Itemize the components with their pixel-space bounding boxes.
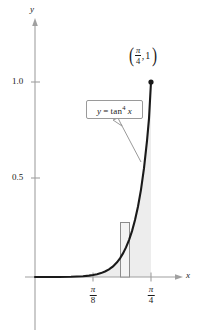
x-tick-label-pi-over-4: π 4 <box>148 285 155 306</box>
pi-over-4-numerator: π <box>148 285 155 294</box>
x-tick-label-pi-over-8: π 8 <box>90 285 97 306</box>
curve-equation-y: y <box>97 106 101 116</box>
pi-over-4-denominator: 4 <box>148 296 155 305</box>
curve-equation-base: tan <box>111 106 123 116</box>
x-axis-label: x <box>186 271 190 280</box>
point-label-y-value: 1 <box>145 50 151 61</box>
point-label-pi-over-4-comma-1: ( π 4 , 1 ) <box>128 45 158 66</box>
point-label-close-paren: ) <box>152 45 157 66</box>
plot-canvas <box>0 0 198 330</box>
callout-leader-line <box>113 118 122 126</box>
point-label-open-paren: ( <box>129 45 134 66</box>
pi-over-8-numerator: π <box>90 285 97 294</box>
endpoint-dot <box>148 79 153 84</box>
x-axis-arrowhead <box>175 274 183 280</box>
curve-equation-equals: = <box>103 106 108 116</box>
y-axis-label: y <box>30 5 34 14</box>
y-axis-arrowhead <box>32 18 38 26</box>
figure-tan4x-area: y x 1.0 0.5 π 8 π 4 ( π 4 , 1 ) y = tan4… <box>0 0 198 330</box>
y-tick-label-0-5: 0.5 <box>12 173 23 182</box>
curve-equation-callout: y = tan4 x <box>86 100 143 119</box>
curve-equation-exponent: 4 <box>122 104 125 111</box>
curve-equation-variable: x <box>128 106 132 116</box>
y-tick-label-1: 1.0 <box>12 77 23 86</box>
pi-over-8-denominator: 8 <box>90 296 97 305</box>
callout-leader-tail <box>121 124 141 162</box>
curve-equation-text: y = tan4 x <box>97 104 132 116</box>
